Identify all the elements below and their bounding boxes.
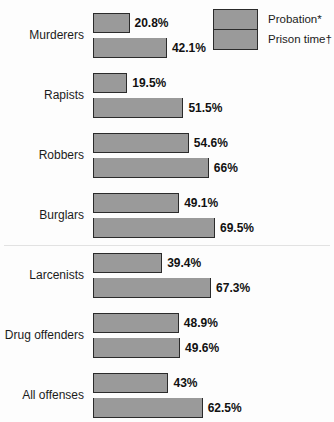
bar-value-label: 49.1% <box>184 196 218 210</box>
bar-probation <box>93 253 162 273</box>
category-label: Drug offenders <box>0 310 84 360</box>
category-label: Larcenists <box>0 250 84 300</box>
bar-pair: 39.4%67.3% <box>93 250 250 300</box>
bar-row: 66% <box>93 155 238 180</box>
bar-value-label: 67.3% <box>216 281 250 295</box>
bar-prison-time <box>93 158 209 178</box>
bar-value-label: 43% <box>173 376 197 390</box>
bar-value-label: 54.6% <box>194 136 228 150</box>
bar-group: Drug offenders48.9%49.6% <box>0 310 334 360</box>
bar-probation <box>93 313 179 333</box>
bar-row: 69.5% <box>93 215 254 240</box>
bar-row: 49.1% <box>93 190 254 215</box>
bar-group: Murderers20.8%42.1% <box>0 10 334 60</box>
bar-prison-time <box>93 398 203 418</box>
bar-value-label: 66% <box>214 161 238 175</box>
category-label: Robbers <box>0 130 84 180</box>
bar-probation <box>93 73 127 93</box>
bar-value-label: 49.6% <box>185 341 219 355</box>
bar-group: Larcenists39.4%67.3% <box>0 250 334 300</box>
bar-value-label: 62.5% <box>208 401 242 415</box>
bar-group: Burglars49.1%69.5% <box>0 190 334 240</box>
bar-row: 54.6% <box>93 130 238 155</box>
bar-row: 42.1% <box>93 35 206 60</box>
bar-value-label: 48.9% <box>184 316 218 330</box>
bar-value-label: 42.1% <box>172 41 206 55</box>
bar-group: Rapists19.5%51.5% <box>0 70 334 120</box>
bar-probation <box>93 133 189 153</box>
category-label: Murderers <box>0 10 84 60</box>
bar-group-list: Murderers20.8%42.1%Rapists19.5%51.5%Robb… <box>0 10 334 422</box>
bar-row: 39.4% <box>93 250 250 275</box>
bar-value-label: 39.4% <box>167 256 201 270</box>
bar-prison-time <box>93 338 180 358</box>
bar-row: 51.5% <box>93 95 222 120</box>
bar-probation <box>93 373 168 393</box>
category-label: All offenses <box>0 370 84 420</box>
bar-row: 43% <box>93 370 242 395</box>
bar-pair: 54.6%66% <box>93 130 238 180</box>
bar-row: 48.9% <box>93 310 219 335</box>
category-label: Rapists <box>0 70 84 120</box>
bar-pair: 49.1%69.5% <box>93 190 254 240</box>
bar-prison-time <box>93 98 183 118</box>
bar-row: 62.5% <box>93 395 242 420</box>
bar-value-label: 20.8% <box>135 16 169 30</box>
bar-row: 19.5% <box>93 70 222 95</box>
bar-prison-time <box>93 278 211 298</box>
bar-pair: 19.5%51.5% <box>93 70 222 120</box>
bar-row: 67.3% <box>93 275 250 300</box>
category-label: Burglars <box>0 190 84 240</box>
bar-probation <box>93 13 130 33</box>
bar-prison-time <box>93 38 167 58</box>
bar-group: Robbers54.6%66% <box>0 130 334 180</box>
bar-group: All offenses43%62.5% <box>0 370 334 420</box>
bar-pair: 48.9%49.6% <box>93 310 219 360</box>
bar-probation <box>93 193 179 213</box>
bar-value-label: 69.5% <box>220 221 254 235</box>
bar-pair: 20.8%42.1% <box>93 10 206 60</box>
bar-pair: 43%62.5% <box>93 370 242 420</box>
bar-prison-time <box>93 218 215 238</box>
bar-row: 49.6% <box>93 335 219 360</box>
bar-row: 20.8% <box>93 10 206 35</box>
bar-value-label: 51.5% <box>188 101 222 115</box>
bar-value-label: 19.5% <box>132 76 166 90</box>
